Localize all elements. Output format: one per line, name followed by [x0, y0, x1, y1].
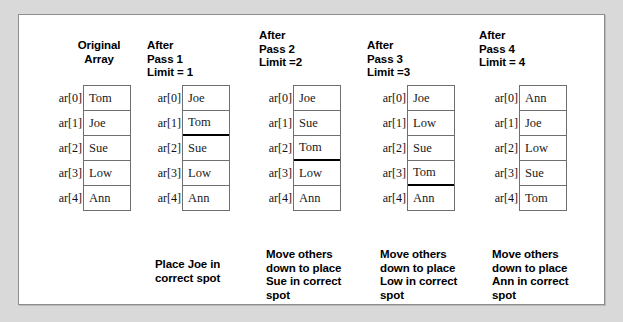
array-cell-value: Ann — [413, 191, 435, 206]
array-index-label: ar[0] — [495, 91, 518, 106]
array-index-label: ar[2] — [495, 141, 518, 156]
array-cell: ar[3]Low — [84, 161, 130, 186]
array-cell: ar[0]Joe — [294, 86, 340, 111]
column-header-0: Original Array — [39, 39, 159, 66]
figure-panel: Original Arrayar[0]Tomar[1]Joear[2]Suear… — [18, 14, 605, 305]
array-index-label: ar[4] — [59, 191, 82, 206]
array-cell: ar[0]Ann — [520, 86, 566, 111]
array-box-0: ar[0]Tomar[1]Joear[2]Suear[3]Lowar[4]Ann — [83, 85, 131, 211]
array-cell-value: Joe — [413, 91, 430, 106]
array-index-label: ar[3] — [158, 166, 181, 181]
array-cell-value: Joe — [299, 91, 316, 106]
array-cell-value: Tom — [525, 191, 548, 206]
array-cell: ar[1]Low — [408, 111, 454, 136]
column-header-3: After Pass 3 Limit =3 — [367, 39, 487, 80]
array-index-label: ar[0] — [269, 91, 292, 106]
array-index-label: ar[0] — [158, 91, 181, 106]
array-cell: ar[2]Tom — [294, 136, 340, 161]
array-cell-value: Ann — [525, 91, 547, 106]
array-cell: ar[2]Sue — [84, 136, 130, 161]
array-index-label: ar[4] — [269, 191, 292, 206]
array-index-label: ar[0] — [59, 91, 82, 106]
column-header-4: After Pass 4 Limit = 4 — [479, 29, 599, 70]
array-cell-value: Joe — [188, 91, 205, 106]
array-cell: ar[2]Sue — [183, 136, 229, 161]
array-cell-value: Low — [525, 141, 548, 156]
array-cell: ar[2]Sue — [408, 136, 454, 161]
array-cell: ar[3]Tom — [408, 161, 454, 186]
array-cell: ar[4]Ann — [84, 186, 130, 211]
array-cell: ar[4]Ann — [408, 186, 454, 211]
array-index-label: ar[1] — [59, 116, 82, 131]
array-index-label: ar[2] — [158, 141, 181, 156]
array-cell: ar[3]Low — [294, 161, 340, 186]
array-cell-value: Low — [413, 116, 436, 131]
array-cell: ar[3]Sue — [520, 161, 566, 186]
array-cell-value: Tom — [89, 91, 112, 106]
array-cell: ar[4]Tom — [520, 186, 566, 211]
array-cell-value: Tom — [188, 115, 211, 130]
array-cell-value: Tom — [299, 140, 322, 155]
array-cell-value: Low — [89, 166, 112, 181]
column-caption-1: Place Joe in correct spot — [155, 258, 280, 285]
array-cell: ar[2]Low — [520, 136, 566, 161]
array-index-label: ar[1] — [158, 115, 181, 130]
array-index-label: ar[1] — [269, 116, 292, 131]
array-index-label: ar[4] — [158, 191, 181, 206]
array-cell: ar[1]Sue — [294, 111, 340, 136]
column-caption-4: Move others down to place Ann in correct… — [492, 248, 617, 302]
array-index-label: ar[3] — [383, 165, 406, 180]
array-cell: ar[4]Ann — [294, 186, 340, 211]
array-index-label: ar[4] — [495, 191, 518, 206]
array-cell: ar[1]Tom — [183, 111, 229, 136]
array-index-label: ar[1] — [495, 116, 518, 131]
array-box-4: ar[0]Annar[1]Joear[2]Lowar[3]Suear[4]Tom — [519, 85, 567, 211]
array-index-label: ar[1] — [383, 116, 406, 131]
column-caption-2: Move others down to place Sue in correct… — [266, 248, 391, 302]
array-cell-value: Sue — [89, 141, 108, 156]
array-cell-value: Low — [188, 166, 211, 181]
column-header-1: After Pass 1 Limit = 1 — [147, 39, 267, 80]
array-cell: ar[0]Joe — [408, 86, 454, 111]
array-index-label: ar[3] — [269, 166, 292, 181]
column-header-2: After Pass 2 Limit =2 — [259, 29, 379, 70]
array-cell: ar[3]Low — [183, 161, 229, 186]
array-cell: ar[0]Tom — [84, 86, 130, 111]
array-index-label: ar[2] — [269, 140, 292, 155]
array-cell-value: Sue — [413, 141, 432, 156]
array-index-label: ar[0] — [383, 91, 406, 106]
array-cell-value: Ann — [188, 191, 210, 206]
array-cell: ar[1]Joe — [84, 111, 130, 136]
array-cell: ar[1]Joe — [520, 111, 566, 136]
array-cell-value: Tom — [413, 165, 436, 180]
array-cell-value: Ann — [89, 191, 111, 206]
array-index-label: ar[2] — [383, 141, 406, 156]
array-cell-value: Sue — [525, 166, 544, 181]
array-cell-value: Ann — [299, 191, 321, 206]
array-cell-value: Joe — [89, 116, 106, 131]
array-cell-value: Sue — [299, 116, 318, 131]
array-index-label: ar[3] — [495, 166, 518, 181]
array-index-label: ar[4] — [383, 191, 406, 206]
array-box-2: ar[0]Joear[1]Suear[2]Tomar[3]Lowar[4]Ann — [293, 85, 341, 211]
array-box-3: ar[0]Joear[1]Lowar[2]Suear[3]Tomar[4]Ann — [407, 85, 455, 211]
array-cell-value: Sue — [188, 141, 207, 156]
array-cell-value: Joe — [525, 116, 542, 131]
column-caption-3: Move others down to place Low in correct… — [380, 248, 505, 302]
array-cell: ar[0]Joe — [183, 86, 229, 111]
array-index-label: ar[2] — [59, 141, 82, 156]
array-cell: ar[4]Ann — [183, 186, 229, 211]
array-index-label: ar[3] — [59, 166, 82, 181]
array-cell-value: Low — [299, 166, 322, 181]
array-box-1: ar[0]Joear[1]Tomar[2]Suear[3]Lowar[4]Ann — [182, 85, 230, 211]
